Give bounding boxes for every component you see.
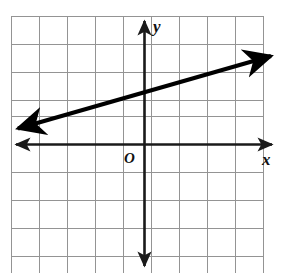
x-axis-label: x xyxy=(261,150,271,169)
origin-label: O xyxy=(124,150,135,166)
coordinate-plane-figure: y x O xyxy=(0,0,290,273)
graph-canvas: y x O xyxy=(0,0,290,273)
y-axis-label: y xyxy=(151,17,161,36)
